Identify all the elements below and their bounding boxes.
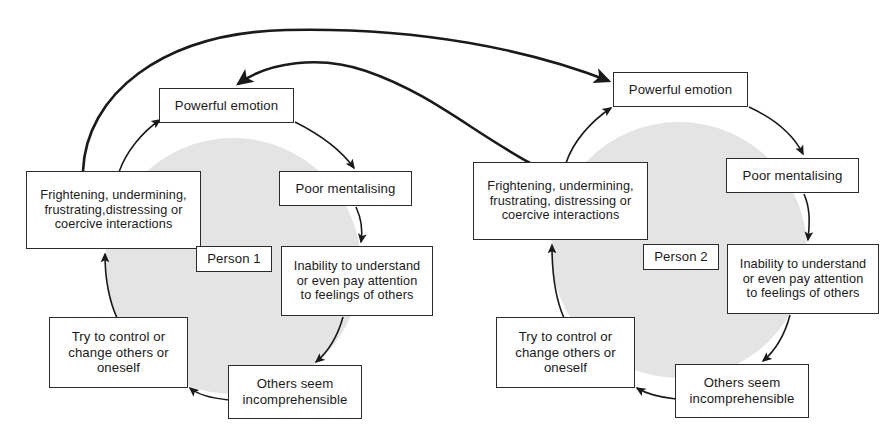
person2-node-powerful-emotion[interactable]: Powerful emotion: [613, 72, 748, 107]
node-label: Try to control or change others or onese…: [68, 329, 169, 376]
person1-arrow-frightening-to-emotion: [119, 120, 160, 172]
node-label: Poor mentalising: [743, 168, 843, 184]
node-label: Others seem incomprehensible: [243, 376, 348, 407]
node-label: Powerful emotion: [629, 82, 733, 98]
node-label: Others seem incomprehensible: [690, 375, 795, 406]
person2-node-poor-mentalising[interactable]: Poor mentalising: [726, 158, 859, 193]
person2-node-others-seem-incomprehensible[interactable]: Others seem incomprehensible: [675, 364, 809, 418]
diagram-canvas: Powerful emotion Poor mentalising Inabil…: [0, 0, 894, 448]
person1-node-inability-to-understand[interactable]: Inability to understand or even pay atte…: [281, 246, 433, 316]
person2-node-inability-to-understand[interactable]: Inability to understand or even pay atte…: [727, 244, 879, 314]
person-label-text: Person 1: [207, 251, 261, 267]
person1-cycle-label[interactable]: Person 1: [196, 246, 272, 272]
person1-node-try-to-control[interactable]: Try to control or change others or onese…: [49, 317, 188, 388]
person1-node-frightening-interactions[interactable]: Frightening, undermining, frustrating,di…: [26, 171, 201, 249]
person2-arrow-others-to-control: [637, 388, 676, 399]
node-label: Powerful emotion: [175, 98, 279, 114]
person2-arrow-emotion-to-mentalising: [749, 107, 803, 154]
person1-node-others-seem-incomprehensible[interactable]: Others seem incomprehensible: [228, 365, 362, 419]
node-label: Inability to understand or even pay atte…: [740, 257, 866, 302]
person-label-text: Person 2: [654, 249, 708, 265]
node-label: Try to control or change others or onese…: [515, 329, 616, 376]
node-label: Inability to understand or even pay atte…: [294, 259, 420, 304]
person1-node-powerful-emotion[interactable]: Powerful emotion: [159, 88, 294, 123]
person2-node-frightening-interactions[interactable]: Frightening, undermining, frustrating, d…: [473, 162, 648, 240]
node-label: Frightening, undermining, frustrating, d…: [487, 179, 633, 224]
node-label: Frightening, undermining, frustrating,di…: [40, 188, 186, 233]
node-label: Poor mentalising: [296, 181, 396, 197]
person1-node-poor-mentalising[interactable]: Poor mentalising: [279, 171, 412, 206]
person2-cycle-label[interactable]: Person 2: [643, 244, 719, 270]
person2-node-try-to-control[interactable]: Try to control or change others or onese…: [496, 317, 635, 388]
